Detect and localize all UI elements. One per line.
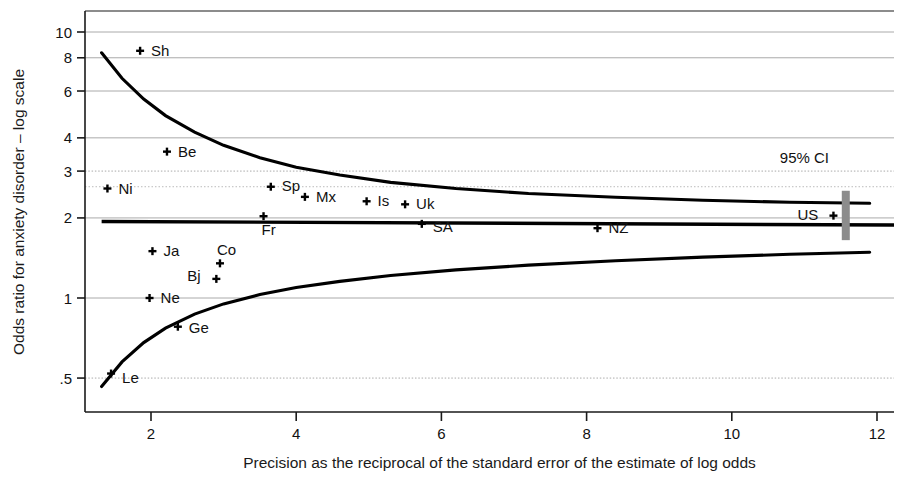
y-tick-label-2: 2 (64, 209, 72, 226)
data-point-label-Be: Be (178, 143, 196, 160)
y-tick-label-0.5: .5 (59, 370, 72, 387)
data-point-label-Sp: Sp (282, 177, 300, 194)
funnel-plot-figure: .512346810 24681012 ShBeNiSpMxIsUkFrSANZ… (0, 0, 907, 496)
x-tick-label-2: 2 (147, 425, 155, 442)
data-point-label-Sh: Sh (151, 42, 169, 59)
data-point-label-Uk: Uk (416, 195, 435, 212)
data-point-label-Mx: Mx (316, 188, 336, 205)
data-point-label-SA: SA (433, 218, 453, 235)
x-tick-label-6: 6 (437, 425, 445, 442)
y-axis-title: Odds ratio for anxiety disorder – log sc… (10, 69, 27, 355)
x-tick-label-8: 8 (582, 425, 590, 442)
data-point-label-US: US (797, 206, 818, 223)
chart-background (0, 0, 907, 496)
data-point-label-Ja: Ja (163, 242, 180, 259)
ci-annotation-label: 95% CI (780, 149, 829, 166)
funnel-plot-svg: .512346810 24681012 ShBeNiSpMxIsUkFrSANZ… (0, 0, 907, 496)
us-confidence-interval-bar (842, 191, 850, 240)
x-tick-label-12: 12 (869, 425, 886, 442)
data-point-label-Ge: Ge (189, 319, 209, 336)
data-point-label-Ni: Ni (118, 180, 132, 197)
data-point-label-Is: Is (378, 192, 390, 209)
y-tick-label-4: 4 (64, 129, 72, 146)
y-tick-label-6: 6 (64, 83, 72, 100)
x-tick-label-4: 4 (292, 425, 300, 442)
y-tick-label-1: 1 (64, 290, 72, 307)
x-tick-label-10: 10 (723, 425, 740, 442)
data-point-label-Co: Co (217, 241, 236, 258)
x-axis-title: Precision as the reciprocal of the stand… (243, 454, 756, 471)
data-point-label-Ne: Ne (161, 289, 180, 306)
data-point-label-Le: Le (122, 369, 139, 386)
data-point-label-Fr: Fr (262, 221, 276, 238)
y-tick-label-10: 10 (55, 24, 72, 41)
data-point-label-Bj: Bj (187, 267, 200, 284)
y-tick-label-3: 3 (64, 163, 72, 180)
y-tick-label-8: 8 (64, 49, 72, 66)
data-point-label-NZ: NZ (608, 219, 628, 236)
